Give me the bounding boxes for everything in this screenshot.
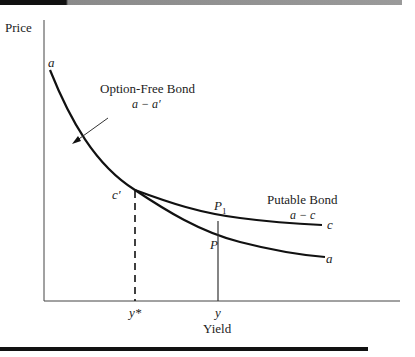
- x-axis-label: Yield: [203, 321, 231, 337]
- bottom-rule: [0, 347, 368, 351]
- option-free-curve: [50, 70, 325, 257]
- putable-sub: a − c: [290, 208, 315, 223]
- tick-y-star: y*: [129, 305, 141, 321]
- arrow-line: [76, 118, 108, 141]
- label-a-end: a: [326, 251, 333, 267]
- label-c-end: c: [327, 217, 333, 233]
- price-yield-diagram: [0, 0, 415, 357]
- label-a-start: a: [48, 55, 55, 71]
- y-axis-label: Price: [5, 20, 32, 36]
- putable-title: Putable Bond: [267, 192, 337, 208]
- option-free-sub: a − a′: [132, 97, 161, 112]
- arrow-head-icon: [72, 136, 81, 144]
- label-p: P: [210, 237, 218, 253]
- tick-y: y: [215, 305, 221, 321]
- option-free-title: Option-Free Bond: [100, 81, 195, 97]
- label-p1: P1: [214, 198, 226, 216]
- label-c-prime: c′: [112, 187, 121, 203]
